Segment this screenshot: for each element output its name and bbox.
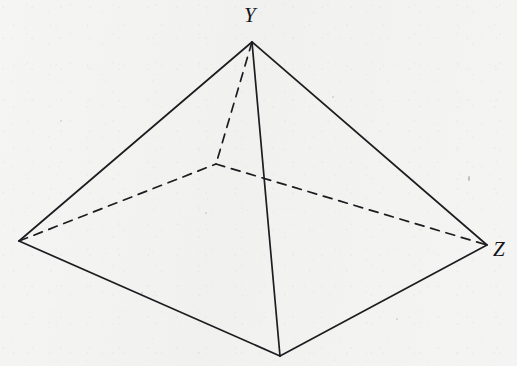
- hidden-edge-apex-back_hidden: [216, 42, 252, 164]
- edge-apex-right: [252, 42, 487, 245]
- edge-apex-front: [252, 42, 280, 356]
- edge-left-front: [19, 241, 280, 356]
- edge-apex-left: [19, 42, 252, 241]
- vertex-label-z: Z: [493, 239, 505, 260]
- edge-front-right: [280, 245, 487, 356]
- vertex-label-y: Y: [244, 5, 256, 26]
- pyramid-svg: [0, 0, 517, 366]
- pyramid-figure: Y Z: [0, 0, 517, 366]
- hidden-edges-group: [19, 42, 487, 245]
- hidden-edge-back_hidden-right: [216, 164, 487, 245]
- hidden-edge-left-back_hidden: [19, 164, 216, 241]
- visible-edges-group: [19, 42, 487, 356]
